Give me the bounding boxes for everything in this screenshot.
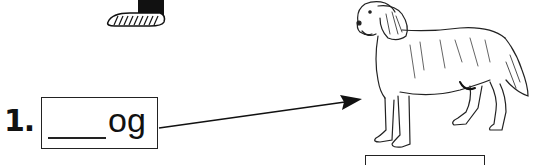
shoe-icon [108, 0, 165, 26]
item-number: 1. [4, 103, 34, 138]
bottom-answer-box[interactable] [365, 155, 485, 165]
answer-box[interactable]: og [41, 97, 158, 149]
dog-icon [357, 2, 528, 147]
arrow-icon [159, 95, 362, 128]
word-suffix: og [108, 101, 146, 140]
blank-line[interactable] [48, 137, 106, 139]
